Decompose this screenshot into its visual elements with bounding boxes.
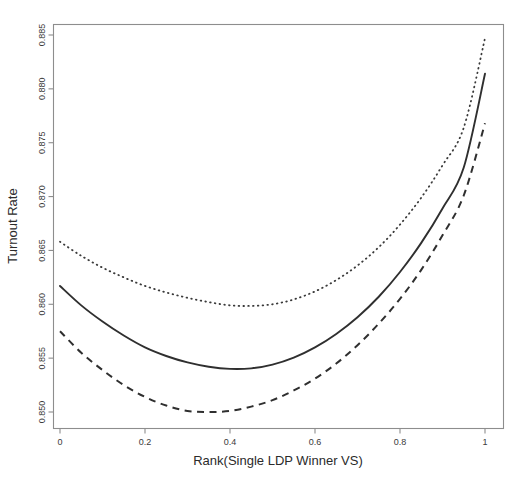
- y-tick-label: 0.870: [37, 185, 47, 208]
- y-tick-label: 0.850: [37, 401, 47, 424]
- x-tick-label: 0.4: [224, 437, 237, 447]
- plot-background: [0, 0, 524, 477]
- y-tick-label: 0.875: [37, 131, 47, 154]
- x-tick-label: 1: [482, 437, 487, 447]
- x-tick-label: 0: [57, 437, 62, 447]
- x-tick-label: 0.8: [394, 437, 407, 447]
- y-tick-label: 0.885: [37, 24, 47, 47]
- x-tick-label: 0.2: [139, 437, 152, 447]
- x-tick-label: 0.6: [309, 437, 322, 447]
- chart-figure: 0.8500.8550.8600.8650.8700.8750.8800.885…: [0, 0, 524, 477]
- y-axis-title: Turnout Rate: [5, 188, 20, 263]
- y-tick-label: 0.855: [37, 347, 47, 370]
- x-axis-title: Rank(Single LDP Winner VS): [193, 453, 363, 468]
- y-tick-label: 0.860: [37, 293, 47, 316]
- turnout-rate-plot: 0.8500.8550.8600.8650.8700.8750.8800.885…: [0, 0, 524, 477]
- y-tick-label: 0.865: [37, 239, 47, 262]
- y-tick-label: 0.880: [37, 78, 47, 101]
